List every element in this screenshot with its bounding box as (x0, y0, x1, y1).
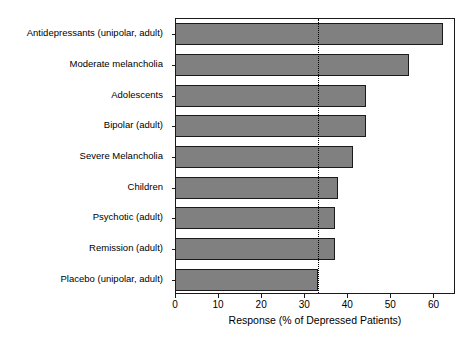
x-axis: 0102030405060 Response (% of Depressed P… (175, 294, 455, 338)
bar-8 (176, 238, 335, 260)
y-axis-tick (172, 218, 176, 219)
bar-fill (176, 54, 409, 76)
x-axis-tick-label-10: 10 (213, 299, 224, 310)
bar-fill (176, 115, 366, 137)
y-axis-tick (172, 126, 176, 127)
x-axis-tick (347, 294, 348, 298)
y-axis-tick (172, 96, 176, 97)
bar-fill (176, 238, 335, 260)
y-axis-label-9: Placebo (unipolar, adult) (61, 274, 163, 284)
bar-2 (176, 54, 409, 76)
y-axis-tick (172, 280, 176, 281)
y-axis-tick (172, 249, 176, 250)
x-axis-tick (304, 294, 305, 298)
x-axis-title: Response (% of Depressed Patients) (175, 314, 455, 326)
bar-chart-figure: Antidepressants (unipolar, adult)Moderat… (0, 0, 469, 338)
bar-fill (176, 146, 353, 168)
y-axis-tick (172, 65, 176, 66)
bar-4 (176, 115, 366, 137)
x-axis-tick-label-50: 50 (385, 299, 396, 310)
y-axis-label-4: Bipolar (adult) (104, 120, 163, 130)
y-axis-label-5: Severe Melancholia (80, 151, 163, 161)
y-axis-tick (172, 188, 176, 189)
bar-fill (176, 207, 335, 229)
bar-6 (176, 177, 338, 199)
bar-5 (176, 146, 353, 168)
bar-9 (176, 269, 318, 291)
y-axis-label-3: Adolescents (111, 90, 163, 100)
x-axis-tick (433, 294, 434, 298)
bar-7 (176, 207, 335, 229)
y-axis-label-6: Children (128, 182, 163, 192)
bar-fill (176, 177, 338, 199)
x-axis-tick (175, 294, 176, 298)
x-axis-tick-label-0: 0 (172, 299, 178, 310)
y-axis-label-2: Moderate melancholia (70, 59, 163, 69)
y-axis-label-1: Antidepressants (unipolar, adult) (27, 28, 163, 38)
y-axis-tick (172, 34, 176, 35)
x-axis-tick-label-30: 30 (299, 299, 310, 310)
plot-area (175, 18, 455, 294)
bar-fill (176, 269, 318, 291)
bar-fill (176, 23, 443, 45)
x-axis-tick-label-60: 60 (428, 299, 439, 310)
reference-line (318, 19, 319, 293)
x-axis-tick (261, 294, 262, 298)
bar-1 (176, 23, 443, 45)
bar-fill (176, 85, 366, 107)
bar-3 (176, 85, 366, 107)
x-axis-tick-label-20: 20 (256, 299, 267, 310)
y-axis-tick (172, 157, 176, 158)
x-axis-tick (218, 294, 219, 298)
y-axis-label-8: Remission (adult) (89, 243, 163, 253)
x-axis-tick-label-40: 40 (342, 299, 353, 310)
y-axis-category-labels: Antidepressants (unipolar, adult)Moderat… (0, 18, 169, 294)
y-axis-label-7: Psychotic (adult) (93, 212, 163, 222)
x-axis-tick (390, 294, 391, 298)
